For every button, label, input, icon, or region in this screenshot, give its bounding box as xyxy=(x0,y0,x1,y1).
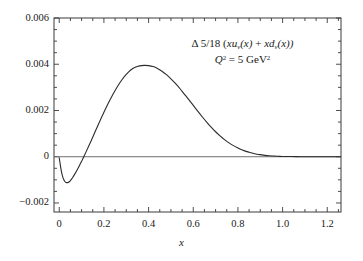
x-tick-label: 0 xyxy=(39,219,79,230)
x-tick-label: 1.0 xyxy=(263,219,303,230)
x-tick-label: 0.8 xyxy=(218,219,258,230)
annotation-xu-var: xu xyxy=(227,37,237,49)
y-tick-label: 0.002 xyxy=(25,105,49,116)
x-tick-label: 1.2 xyxy=(307,219,347,230)
y-tick-label: 0.006 xyxy=(25,13,49,24)
annotation-xu-arg: (x) xyxy=(240,37,252,49)
annotation-xd-subscript: v xyxy=(275,43,278,50)
annotation-q-symbol: Q xyxy=(215,53,223,65)
annotation-xd-var: xd xyxy=(264,37,274,49)
annotation-line-scale: Q2 = 5 GeV2 xyxy=(150,52,335,68)
y-tick-label: 0 xyxy=(44,151,49,162)
annotation-xu-subscript: v xyxy=(237,43,240,50)
x-tick-label: 0.6 xyxy=(173,219,213,230)
x-tick-label: 0.4 xyxy=(129,219,169,230)
chart-annotation: Δ 5/18 (xuv(x) + xdv(x)) Q2 = 5 GeV2 xyxy=(150,36,335,68)
y-tick-label: −0.002 xyxy=(19,197,49,208)
annotation-delta-prefix: Δ 5/18 ( xyxy=(192,37,227,49)
annotation-line-distribution: Δ 5/18 (xuv(x) + xdv(x)) xyxy=(150,36,335,52)
y-tick-label: 0.004 xyxy=(25,59,49,70)
annotation-q-value: = 5 GeV xyxy=(226,53,267,65)
x-axis-title: x xyxy=(0,236,363,248)
x-tick-label: 0.2 xyxy=(84,219,124,230)
figure-container: 0.006 0.004 0.002 0 −0.002 0 0.2 0.4 0.6… xyxy=(0,0,363,261)
annotation-xd-arg: (x)) xyxy=(278,37,294,49)
annotation-plus: + xyxy=(252,37,264,49)
data-curve xyxy=(59,65,340,182)
annotation-q-exponent: 2 xyxy=(223,54,226,61)
annotation-gev-exponent: 2 xyxy=(267,54,270,61)
